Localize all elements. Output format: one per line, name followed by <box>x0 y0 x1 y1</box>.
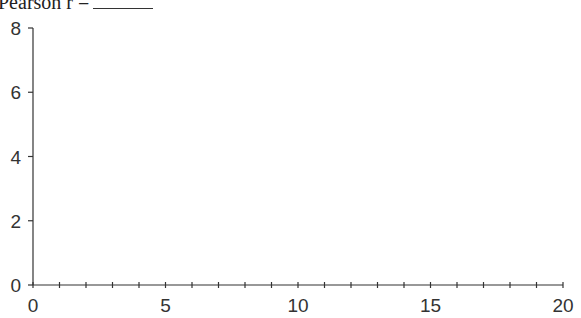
x-axis-ticks: 05101520 <box>28 282 574 316</box>
y-tick-label: 4 <box>10 147 21 168</box>
scatter-plot: 02468 05101520 <box>0 0 581 318</box>
y-tick-label: 0 <box>10 275 21 296</box>
x-tick-label: 20 <box>552 295 573 316</box>
y-tick-label: 6 <box>10 82 21 103</box>
y-axis-ticks: 02468 <box>10 18 33 296</box>
x-tick-label: 0 <box>28 295 39 316</box>
y-tick-label: 8 <box>10 18 21 39</box>
x-tick-label: 5 <box>160 295 171 316</box>
axes <box>33 28 563 285</box>
x-tick-label: 15 <box>420 295 441 316</box>
y-tick-label: 2 <box>10 211 21 232</box>
x-tick-label: 10 <box>287 295 308 316</box>
